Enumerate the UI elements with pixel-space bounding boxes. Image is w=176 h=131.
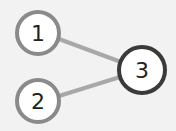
- edge-2-3: [59, 77, 120, 96]
- node-2-label: 2: [31, 89, 45, 114]
- node-1-label: 1: [31, 21, 45, 46]
- edge-1-3: [59, 39, 121, 62]
- node-2: 2: [17, 80, 59, 122]
- node-3-label: 3: [135, 58, 149, 83]
- node-3: 3: [119, 47, 165, 93]
- node-1: 1: [17, 12, 59, 54]
- graph-diagram: 1 2 3: [0, 0, 176, 131]
